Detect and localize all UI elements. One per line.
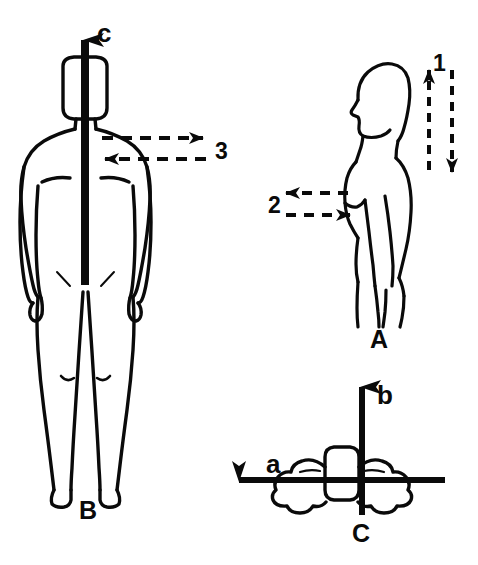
torso-back-side [396,158,411,278]
marker-2-arrows [286,193,350,215]
panel-label-a: A [370,327,388,352]
hip-back-side [399,278,404,296]
head-profile-side [358,64,410,141]
figure-a-lateral-body [345,64,411,327]
arm-front-side [365,200,375,286]
thigh-front-side [357,282,358,327]
shoulder-crease-right [364,470,384,472]
jaw-neck-front-side [356,136,363,162]
leg-right-outer [117,297,134,490]
marker-label-3: 3 [215,140,228,163]
neck-back-side [396,141,398,158]
arm-right-inner [130,186,135,298]
foot-left [51,490,71,507]
axis-label-b: b [377,382,393,408]
marker-label-2: 2 [268,194,281,217]
head-top-down [325,447,359,500]
thigh-mid-side [375,286,379,327]
groin-crease-left [57,272,70,286]
pectoral-left [42,178,70,183]
face-profile-side [351,100,390,138]
marker-3-arrows [102,138,206,159]
leg-inner-right [88,292,100,490]
knee-crease-right [97,376,110,380]
torso-front-side [345,162,358,238]
arm-left-inner [36,186,41,298]
axis-label-a: a [266,451,280,477]
panel-label-c: C [352,521,370,546]
chest-curve-side [345,200,365,207]
leg-inner-left [71,292,83,490]
knee-crease-left [61,376,74,380]
anatomical-axes-diagram: c 3 1 2 A B C b a [0,0,478,565]
thigh-inner-side [383,290,386,327]
arm-back-side [385,196,393,286]
groin-crease-right [101,272,114,286]
diagram-canvas [0,0,478,565]
foot-right [100,490,120,507]
torso-right-outline [96,129,150,297]
abdomen-front-side [356,238,358,282]
torso-left-outline [21,129,75,297]
thigh-back-side [400,296,404,327]
pectoral-right [101,178,129,183]
shoulder-lobe-right [358,460,412,513]
marker-1-arrows [429,70,452,172]
shoulder-crease-left [300,470,320,472]
leg-left-outer [37,297,54,490]
panel-label-b: B [79,498,97,523]
axis-label-c: c [97,20,111,46]
marker-label-1: 1 [433,52,446,75]
